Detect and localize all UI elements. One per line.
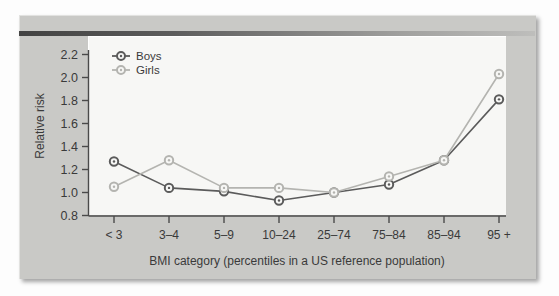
data-point-center	[113, 160, 115, 162]
y-tick-label: 1.4	[61, 140, 78, 154]
data-point-center	[388, 175, 390, 177]
x-tick-label: 3–4	[159, 228, 179, 242]
legend-label-boys: Boys	[136, 50, 162, 62]
series-boys	[110, 95, 503, 205]
series-line	[114, 74, 499, 192]
y-tick-label: 1.0	[61, 186, 78, 200]
figure-container: Relative risk 0.8 1.0 1.2 1.4 1.6 1.8 2.…	[0, 0, 559, 296]
data-point-center	[168, 159, 170, 161]
x-axis-title: BMI category (percentiles in a US refere…	[149, 254, 444, 268]
legend-swatch-center	[120, 55, 122, 57]
legend-swatch-center	[120, 69, 122, 71]
y-tick-label: 2.2	[61, 48, 78, 62]
x-tick-label: 5–9	[214, 228, 234, 242]
y-tick-label: 0.8	[61, 209, 78, 223]
data-point-center	[498, 98, 500, 100]
line-chart: Relative risk 0.8 1.0 1.2 1.4 1.6 1.8 2.…	[0, 0, 559, 296]
x-axis-category-labels: < 3 3–4 5–9 10–24 25–74 75–84 85–94 95 +	[105, 228, 510, 242]
data-point-center	[113, 186, 115, 188]
data-series-layer	[110, 70, 503, 205]
x-tick-label: 10–24	[262, 228, 296, 242]
data-point-center	[278, 199, 280, 201]
y-tick-label: 1.6	[61, 117, 78, 131]
y-tick-label: 1.2	[61, 163, 78, 177]
series-girls	[110, 70, 503, 197]
data-point-center	[278, 187, 280, 189]
chart-legend: BoysGirls	[112, 50, 162, 76]
data-point-center	[223, 187, 225, 189]
x-tick-label: 95 +	[487, 228, 511, 242]
x-tick-label: 85–94	[427, 228, 461, 242]
legend-label-girls: Girls	[136, 64, 160, 76]
y-axis-title: Relative risk	[33, 92, 47, 158]
y-tick-label: 1.8	[61, 94, 78, 108]
data-point-center	[498, 73, 500, 75]
x-tick-label: < 3	[105, 228, 122, 242]
data-point-center	[168, 187, 170, 189]
x-tick-label: 75–84	[372, 228, 406, 242]
y-tick-label: 2.0	[61, 71, 78, 85]
x-axis-ticks	[114, 216, 499, 223]
data-point-center	[333, 191, 335, 193]
x-tick-label: 25–74	[317, 228, 351, 242]
data-point-center	[443, 159, 445, 161]
y-axis-ticks: 0.8 1.0 1.2 1.4 1.6 1.8 2.0 2.2	[61, 48, 89, 223]
data-point-center	[388, 183, 390, 185]
